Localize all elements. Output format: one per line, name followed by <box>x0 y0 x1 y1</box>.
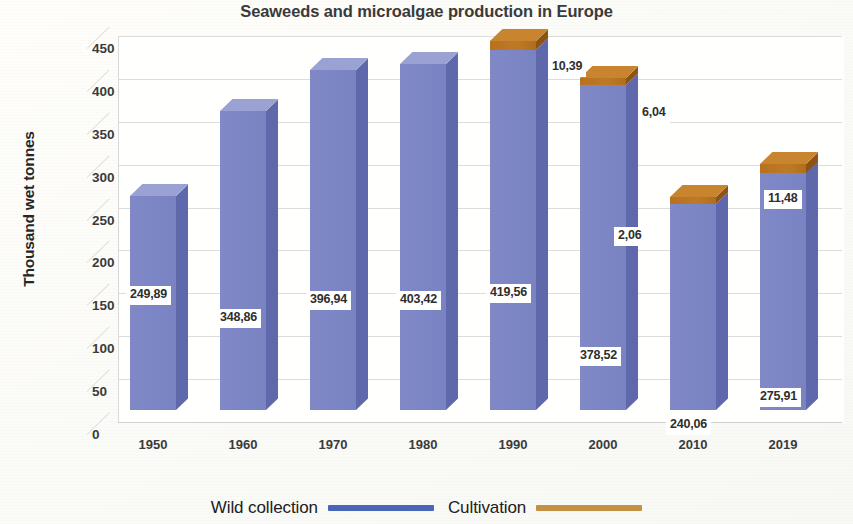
bar-series-container: 249,89348,86396,94403,42419,5610,39378,5… <box>96 36 844 422</box>
bar-segment-wild-collection[interactable] <box>220 111 266 410</box>
bar-face-front <box>760 173 806 410</box>
data-label-wild-collection: 396,94 <box>306 291 351 310</box>
y-axis-title: Thousand wet tonnes <box>20 84 38 334</box>
stacked-bar[interactable] <box>310 70 356 410</box>
data-label-wild-collection: 419,56 <box>486 284 531 303</box>
x-axis-tick-label: 1950 <box>118 437 188 452</box>
bar-segment-wild-collection[interactable] <box>400 64 446 410</box>
bar-face-side <box>536 39 548 410</box>
data-label-wild-collection: 249,89 <box>126 286 171 305</box>
bar-face-front <box>310 70 356 410</box>
bar-segment-cultivation[interactable] <box>580 78 626 85</box>
bar-face-front <box>490 50 536 410</box>
x-axis-tick-label: 2019 <box>748 437 818 452</box>
bar-face-side <box>176 184 188 410</box>
data-label-cultivation: 10,39 <box>548 58 586 77</box>
bar-segment-wild-collection[interactable] <box>760 173 806 410</box>
bar-segment-wild-collection[interactable] <box>490 50 536 410</box>
legend-swatch <box>328 505 434 511</box>
bar-chart: Seaweeds and microalgae production in Eu… <box>0 0 853 524</box>
x-axis-tick-label: 2010 <box>658 437 728 452</box>
bar-face-side <box>716 193 728 410</box>
bar-segment-wild-collection[interactable] <box>670 204 716 410</box>
bar-face-front <box>580 78 626 85</box>
x-axis-tick-label: 1990 <box>478 437 548 452</box>
data-label-wild-collection: 403,42 <box>396 291 441 310</box>
legend-label: Cultivation <box>448 498 526 518</box>
x-axis-tick-label: 1980 <box>388 437 458 452</box>
bar-face-front <box>670 204 716 410</box>
bar-face-side <box>356 58 368 410</box>
data-label-wild-collection: 348,86 <box>216 309 261 328</box>
stacked-bar[interactable] <box>670 197 716 410</box>
x-axis-tick-label: 1970 <box>298 437 368 452</box>
data-label-cultivation: 11,48 <box>764 190 802 209</box>
bar-face-side <box>806 162 818 410</box>
bar-face-front <box>670 197 716 204</box>
bar-face-front <box>400 64 446 410</box>
chart-title: Seaweeds and microalgae production in Eu… <box>0 2 853 21</box>
bar-face-front <box>490 41 536 50</box>
legend-label: Wild collection <box>211 498 318 518</box>
x-axis-tick-label: 1960 <box>208 437 278 452</box>
bar-face-side <box>266 99 278 410</box>
data-label-cultivation: 6,04 <box>638 104 670 123</box>
bar-segment-cultivation[interactable] <box>670 197 716 204</box>
plot-area: 050100150200250300350400450 249,89348,86… <box>96 36 844 454</box>
stacked-bar[interactable] <box>220 111 266 410</box>
bar-face-side <box>446 52 458 410</box>
legend-swatch <box>536 505 642 511</box>
stacked-bar[interactable] <box>400 64 446 410</box>
x-axis-ticks: 19501960197019801990200020102019 <box>96 426 844 452</box>
stacked-bar[interactable] <box>490 41 536 410</box>
bar-segment-cultivation[interactable] <box>490 41 536 50</box>
x-axis-tick-label: 2000 <box>568 437 638 452</box>
data-label-wild-collection: 378,52 <box>576 347 621 366</box>
gridline <box>118 422 842 423</box>
bar-face-front <box>220 111 266 410</box>
data-label-wild-collection: 240,06 <box>666 416 711 435</box>
legend-item[interactable]: Cultivation <box>448 498 642 518</box>
bar-segment-cultivation[interactable] <box>760 164 806 174</box>
data-label-wild-collection: 275,91 <box>756 388 801 407</box>
data-label-cultivation: 2,06 <box>614 227 646 246</box>
legend-item[interactable]: Wild collection <box>211 498 434 518</box>
bar-segment-wild-collection[interactable] <box>310 70 356 410</box>
bar-face-front <box>760 164 806 174</box>
chart-legend: Wild collectionCultivation <box>0 498 853 518</box>
